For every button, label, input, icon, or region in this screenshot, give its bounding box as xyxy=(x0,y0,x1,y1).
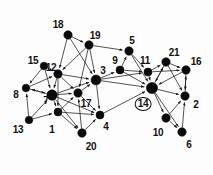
graph-node-16[interactable] xyxy=(182,66,190,74)
graph-node-20[interactable] xyxy=(78,129,86,137)
graph-edge xyxy=(54,100,56,106)
graph-edge xyxy=(82,84,91,90)
graph-edge xyxy=(152,70,179,71)
node-label-13: 13 xyxy=(13,125,24,135)
graph-node-5[interactable] xyxy=(125,47,133,55)
graph-node-2[interactable] xyxy=(181,92,189,100)
graph-node-21[interactable] xyxy=(162,58,170,66)
node-label-5: 5 xyxy=(129,36,134,46)
graph-node-18[interactable] xyxy=(64,31,72,39)
graph-edge xyxy=(155,68,163,83)
graph-edge xyxy=(169,121,177,128)
graph-node-10[interactable] xyxy=(162,114,170,122)
graph-figure: 123456789101112131415161718192021 xyxy=(0,0,213,175)
node-label-19: 19 xyxy=(90,31,101,41)
graph-edge xyxy=(60,39,67,67)
node-label-12: 12 xyxy=(46,63,57,73)
graph-edge xyxy=(72,37,83,42)
graph-canvas xyxy=(0,0,213,175)
node-label-21: 21 xyxy=(169,48,180,58)
graph-edge xyxy=(57,93,71,94)
node-label-17: 17 xyxy=(81,99,92,109)
graph-node-1[interactable] xyxy=(54,108,62,116)
graph-edge xyxy=(62,75,88,79)
graph-edge xyxy=(97,85,100,109)
node-label-3: 3 xyxy=(100,66,105,76)
graph-edge xyxy=(124,70,142,71)
node-label-2: 2 xyxy=(193,100,198,110)
graph-edge xyxy=(101,81,144,87)
node-label-11: 11 xyxy=(140,56,150,66)
graph-node-19[interactable] xyxy=(85,41,93,49)
node-label-15: 15 xyxy=(28,56,39,66)
graph-edge xyxy=(152,65,161,70)
graph-edge xyxy=(33,114,52,119)
graph-edge xyxy=(185,76,186,91)
node-label-10: 10 xyxy=(153,128,164,138)
graph-edge xyxy=(169,101,181,115)
graph-node-13[interactable] xyxy=(25,116,33,124)
graph-edge xyxy=(61,77,73,88)
graph-edge xyxy=(122,57,126,66)
graph-edge xyxy=(90,49,95,73)
node-label-16: 16 xyxy=(191,57,202,67)
node-label-9: 9 xyxy=(112,56,117,66)
graph-edge xyxy=(85,119,95,129)
graph-node-6[interactable] xyxy=(178,128,186,136)
graph-edge xyxy=(54,78,57,88)
graph-edge xyxy=(149,76,150,80)
graph-node-14[interactable] xyxy=(146,82,157,93)
graph-edge xyxy=(158,89,179,94)
node-label-6: 6 xyxy=(186,140,191,150)
graph-edge xyxy=(63,48,86,70)
graph-edge xyxy=(32,90,47,94)
node-label-4: 4 xyxy=(103,122,108,132)
graph-edge xyxy=(93,46,122,50)
graph-edge xyxy=(30,77,52,87)
graph-node-8[interactable] xyxy=(22,84,30,92)
graph-edge xyxy=(182,102,184,127)
graph-edge xyxy=(30,69,42,83)
graph-node-4[interactable] xyxy=(96,111,104,119)
graph-edge xyxy=(27,94,29,116)
graph-node-9[interactable] xyxy=(116,66,124,74)
node-label-14: 14 xyxy=(135,97,152,111)
graph-edge xyxy=(170,64,180,68)
graph-node-3[interactable] xyxy=(91,75,101,85)
graph-edge xyxy=(159,72,182,84)
node-label-18: 18 xyxy=(53,20,64,30)
graph-edge xyxy=(57,82,89,93)
node-label-7: 7 xyxy=(43,96,48,106)
node-label-1: 1 xyxy=(49,125,54,135)
node-label-8: 8 xyxy=(13,90,18,100)
graph-node-11[interactable] xyxy=(144,68,152,76)
edges-layer xyxy=(27,37,186,130)
graph-node-17[interactable] xyxy=(74,89,82,97)
node-label-20: 20 xyxy=(86,142,97,152)
